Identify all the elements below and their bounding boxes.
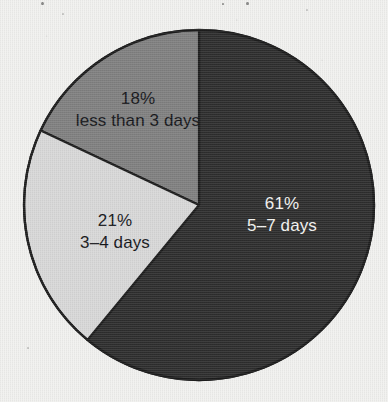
- pie-chart: [0, 0, 388, 402]
- pie-chart-svg: [0, 0, 388, 402]
- pie-slice-group: [24, 30, 374, 380]
- pie-chart-page: 18% less than 3 days 21% 3–4 days 61% 5–…: [0, 0, 388, 402]
